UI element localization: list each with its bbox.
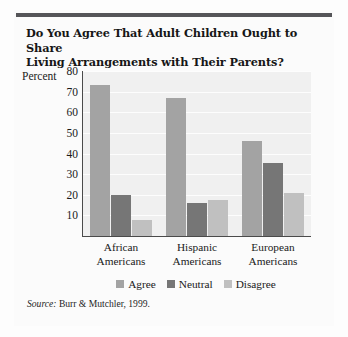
y-axis-tick-label: 20 (67, 189, 79, 201)
bar-agree-hispanic-americans (166, 98, 186, 236)
bar-group: EuropeanAmericans (235, 71, 311, 236)
legend-label: Neutral (179, 278, 213, 290)
y-axis-tick-label: 30 (67, 168, 79, 180)
source-text: Burr & Mutchler, 1999. (59, 298, 150, 309)
plot-area: 1020304050607080AfricanAmericansHispanic… (82, 71, 311, 237)
y-axis-tick-label: 80 (67, 65, 79, 77)
x-axis-category-label-line: Hispanic (177, 241, 217, 253)
bar-agree-african-americans (90, 85, 110, 236)
x-axis-category-label-line: Americans (249, 255, 298, 267)
x-axis-category-label: EuropeanAmericans (235, 241, 311, 268)
x-axis-category-label: AfricanAmericans (83, 241, 159, 268)
legend-item-agree: Agree (116, 278, 156, 290)
bar-disagree-african-americans (132, 220, 152, 237)
legend-swatch-icon (167, 280, 175, 288)
y-axis-tick-label: 40 (67, 148, 79, 160)
legend-swatch-icon (224, 280, 232, 288)
y-axis-tick-label: 70 (67, 86, 79, 98)
bar-neutral-hispanic-americans (187, 203, 207, 236)
x-axis-category-label-line: Americans (173, 255, 222, 267)
chart-legend: AgreeNeutralDisagree (82, 278, 310, 290)
bar-agree-european-americans (242, 141, 262, 236)
x-axis-category-label: HispanicAmericans (159, 241, 235, 268)
x-axis-category-label-line: African (104, 241, 139, 253)
legend-swatch-icon (116, 280, 124, 288)
bar-neutral-european-americans (263, 163, 283, 236)
x-axis-category-label-line: Americans (97, 255, 146, 267)
bar-group: HispanicAmericans (159, 71, 235, 236)
bar-disagree-hispanic-americans (208, 200, 228, 236)
legend-item-disagree: Disagree (224, 278, 276, 290)
bar-neutral-african-americans (111, 195, 131, 236)
y-axis-title: Percent (22, 70, 56, 82)
y-axis-tick-label: 10 (67, 209, 79, 221)
y-axis-tick-label: 50 (67, 127, 79, 139)
bar-group: AfricanAmericans (83, 71, 159, 236)
legend-label: Disagree (236, 278, 276, 290)
legend-label: Agree (128, 278, 156, 290)
figure-container: Do You Agree That Adult Children Ought t… (0, 0, 348, 337)
legend-item-neutral: Neutral (167, 278, 213, 290)
bar-disagree-european-americans (284, 193, 304, 236)
y-axis-tick-label: 60 (67, 106, 79, 118)
source-label: Source: (27, 298, 56, 309)
source-note: Source: Burr & Mutchler, 1999. (27, 298, 150, 309)
x-axis-category-label-line: European (251, 241, 294, 253)
